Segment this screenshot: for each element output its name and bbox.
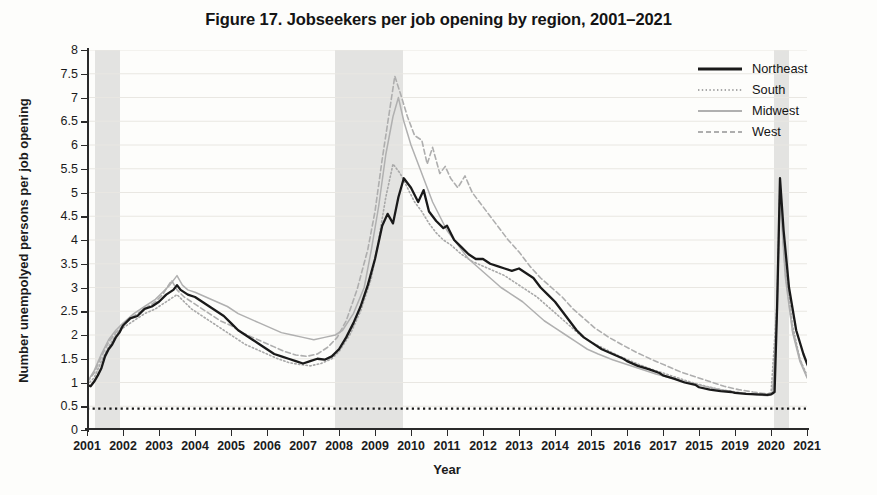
x-tick xyxy=(519,430,520,436)
y-tick xyxy=(81,216,87,217)
x-tick xyxy=(735,430,736,436)
y-tick-label: 6 xyxy=(71,138,78,152)
y-axis-label: Number unempolyed persons per job openin… xyxy=(14,50,32,430)
x-tick-label: 2001 xyxy=(73,439,101,453)
x-tick-label: 2008 xyxy=(325,439,353,453)
x-tick xyxy=(195,430,196,436)
x-tick xyxy=(159,430,160,436)
y-tick xyxy=(81,193,87,194)
x-tick xyxy=(447,430,448,436)
y-tick-label: 0.5 xyxy=(61,399,78,413)
y-tick xyxy=(81,335,87,336)
y-tick-label: 3.5 xyxy=(61,257,78,271)
y-tick-label: 8 xyxy=(71,43,78,57)
legend-label: Northeast xyxy=(752,61,807,76)
x-tick-label: 2015 xyxy=(577,439,605,453)
y-tick-label: 1 xyxy=(71,376,78,390)
legend-item-midwest: Midwest xyxy=(697,100,807,121)
legend-item-northeast: Northeast xyxy=(697,58,807,79)
x-tick-label: 2006 xyxy=(253,439,281,453)
x-tick-label: 2015 xyxy=(685,439,713,453)
legend-item-west: West xyxy=(697,121,807,142)
x-tick-label: 2014 xyxy=(541,439,569,453)
y-tick xyxy=(81,264,87,265)
y-tick-label: 4.5 xyxy=(61,209,78,223)
series-line-northeast xyxy=(87,178,807,397)
x-tick-label: 2017 xyxy=(649,439,677,453)
y-tick xyxy=(81,240,87,241)
x-tick xyxy=(483,430,484,436)
x-tick xyxy=(267,430,268,436)
x-tick-label: 2013 xyxy=(505,439,533,453)
x-tick xyxy=(123,430,124,436)
x-tick-label: 2005 xyxy=(217,439,245,453)
x-tick xyxy=(591,430,592,436)
y-tick-label: 2.5 xyxy=(61,304,78,318)
y-tick-label: 3 xyxy=(71,281,78,295)
y-tick xyxy=(81,311,87,312)
y-tick xyxy=(81,74,87,75)
y-tick xyxy=(81,121,87,122)
x-tick xyxy=(87,430,88,436)
x-tick-label: 2007 xyxy=(289,439,317,453)
figure-container: Figure 17. Jobseekers per job opening by… xyxy=(0,0,877,495)
x-tick xyxy=(771,430,772,436)
y-tick xyxy=(81,98,87,99)
x-tick-label: 2011 xyxy=(434,439,461,453)
legend-label: Midwest xyxy=(752,103,799,118)
y-tick-label: 2 xyxy=(71,328,78,342)
series-line-south xyxy=(87,164,807,402)
legend-swatch-northeast xyxy=(697,63,743,75)
y-tick xyxy=(81,288,87,289)
y-tick-label: 0 xyxy=(71,423,78,437)
x-tick xyxy=(555,430,556,436)
chart-title: Figure 17. Jobseekers per job opening by… xyxy=(0,10,877,29)
x-tick xyxy=(303,430,304,436)
legend-item-south: South xyxy=(697,79,807,100)
x-tick-label: 2020 xyxy=(757,439,785,453)
y-tick-label: 5 xyxy=(71,186,78,200)
x-tick xyxy=(375,430,376,436)
y-tick-label: 1.5 xyxy=(61,352,78,366)
x-tick-label: 2002 xyxy=(109,439,137,453)
y-tick xyxy=(81,406,87,407)
legend-swatch-south xyxy=(697,84,743,96)
x-tick-label: 2009 xyxy=(361,439,389,453)
y-tick xyxy=(81,383,87,384)
x-axis-label: Year xyxy=(87,462,807,477)
x-tick xyxy=(411,430,412,436)
x-tick xyxy=(807,430,808,436)
x-tick-label: 2010 xyxy=(397,439,425,453)
y-tick xyxy=(81,359,87,360)
x-tick-label: 2003 xyxy=(145,439,173,453)
series-line-midwest xyxy=(87,98,807,403)
legend-label: South xyxy=(752,82,785,97)
y-tick-label: 6.5 xyxy=(61,114,78,128)
y-tick xyxy=(81,145,87,146)
y-axis-line xyxy=(87,48,89,432)
y-tick-label: 5.5 xyxy=(61,162,78,176)
x-tick-label: 2012 xyxy=(469,439,497,453)
x-tick-label: 2016 xyxy=(613,439,641,453)
y-axis-label-text: Number unempolyed persons per job openin… xyxy=(16,98,31,383)
x-tick xyxy=(231,430,232,436)
legend-swatch-midwest xyxy=(697,105,743,117)
y-tick xyxy=(81,169,87,170)
x-tick xyxy=(663,430,664,436)
x-tick xyxy=(627,430,628,436)
x-tick xyxy=(699,430,700,436)
y-tick-label: 7.5 xyxy=(61,67,78,81)
x-tick xyxy=(339,430,340,436)
x-tick-label: 2021 xyxy=(793,439,821,453)
legend-swatch-west xyxy=(697,126,743,138)
y-tick-label: 4 xyxy=(71,233,78,247)
legend-label: West xyxy=(752,124,781,139)
x-tick-label: 2004 xyxy=(181,439,209,453)
y-tick xyxy=(81,50,87,51)
x-tick-label: 2019 xyxy=(721,439,749,453)
chart-legend: NortheastSouthMidwestWest xyxy=(697,58,807,142)
y-tick-label: 7 xyxy=(71,91,78,105)
